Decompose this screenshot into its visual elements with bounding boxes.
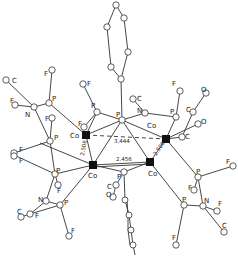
label-f: F — [45, 115, 49, 123]
label-n: N — [137, 107, 142, 115]
label-f: F — [35, 212, 39, 220]
label-o: O — [106, 191, 112, 199]
label-c: C — [137, 95, 142, 103]
label-c: C — [107, 183, 112, 191]
label-f: F — [172, 80, 176, 88]
label-co: Co — [88, 172, 97, 180]
label-f: F — [226, 158, 230, 166]
label-c: C — [17, 208, 22, 216]
distance-label-long: 3.444 — [114, 138, 130, 144]
label-f: F — [10, 97, 14, 105]
label-n: N — [25, 111, 30, 119]
label-f: F — [71, 227, 75, 235]
label-f: F — [19, 157, 23, 165]
co-atom-lower-right — [146, 158, 154, 166]
label-o: O — [201, 86, 207, 94]
label-p: P — [117, 173, 121, 181]
label-f: F — [19, 146, 23, 154]
label-f: F — [172, 234, 176, 242]
distance-label-left: 2.506 — [79, 139, 88, 156]
label-p: P — [170, 108, 174, 116]
label-p: P — [182, 196, 186, 204]
label-p: P — [52, 95, 56, 103]
label-p: P — [91, 102, 95, 110]
molecular-structure-diagram: Co Co Co Co P P P P P P P P P P F F F F … — [0, 0, 238, 257]
label-n: N — [204, 197, 209, 205]
label-o: O — [201, 118, 207, 126]
label-co: Co — [147, 122, 156, 130]
label-co: Co — [70, 132, 79, 140]
bonds — [6, 5, 233, 255]
label-c: C — [186, 106, 191, 114]
label-c: C — [12, 77, 17, 85]
label-c: C — [185, 133, 190, 141]
label-n: N — [38, 196, 43, 204]
label-p: P — [116, 111, 120, 119]
label-f: F — [188, 184, 192, 192]
distance-label-short: 2.456 — [116, 156, 132, 162]
co-atom-lower-left — [89, 161, 97, 169]
label-c: C — [222, 222, 227, 230]
label-f: F — [78, 120, 82, 128]
label-f: F — [57, 187, 61, 195]
label-p: P — [56, 167, 60, 175]
label-p: P — [54, 134, 58, 142]
co-atom-upper-left — [82, 131, 90, 139]
label-p: P — [64, 199, 68, 207]
label-co: Co — [148, 170, 157, 178]
label-p: P — [196, 168, 200, 176]
label-f: F — [44, 70, 48, 78]
co-atom-upper-right — [162, 135, 170, 143]
label-f: F — [218, 200, 222, 208]
label-f: F — [87, 80, 91, 88]
